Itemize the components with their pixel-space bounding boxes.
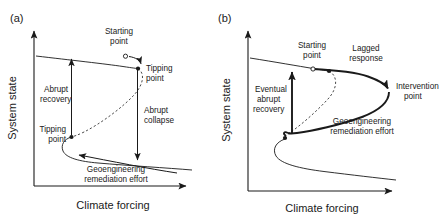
panel-b-eventual-recovery-label-line1: Eventual bbox=[255, 85, 287, 94]
panel-a-abrupt-recovery-label-line2: recovery bbox=[40, 95, 72, 104]
panel-a-starting-point-marker bbox=[123, 54, 127, 58]
panel-b-geoengineering-label-line2: remediation effort bbox=[330, 127, 394, 136]
panel-b-eventual-recovery-label-line2: abrupt bbox=[257, 95, 281, 104]
panel-a-tipping-point-lower-label-line2: point bbox=[48, 135, 66, 144]
panel-b: (b) Climate forcing System state Startin… bbox=[218, 12, 439, 214]
figure-canvas: (a) Climate forcing System state Startin… bbox=[0, 0, 443, 220]
panel-a-x-axis-title: Climate forcing bbox=[76, 199, 149, 211]
panel-a-abrupt-collapse-label-line1: Abrupt bbox=[144, 106, 169, 115]
panel-a-starting-point-label-line2: point bbox=[110, 37, 128, 46]
panel-a-geoengineering-label-line2: remediation effort bbox=[84, 175, 148, 184]
panel-a-tipping-point-lower-marker bbox=[69, 135, 73, 139]
panel-b-starting-point-label-line2: point bbox=[303, 51, 321, 60]
panel-b-intervention-point-label-line1: Intervention bbox=[396, 82, 439, 91]
panel-a-abrupt-collapse-label-line2: collapse bbox=[144, 116, 174, 125]
panel-a-starting-point-label-line1: Starting bbox=[105, 27, 134, 36]
panel-a-unstable-branch bbox=[72, 69, 143, 137]
panel-b-starting-point-marker bbox=[311, 67, 315, 71]
figure-hysteresis-diagram: (a) Climate forcing System state Startin… bbox=[0, 0, 443, 220]
panel-a-y-axis-title: System state bbox=[6, 76, 18, 140]
panel-a-starting-to-tipping-arrow bbox=[129, 57, 141, 64]
panel-b-intervention-point-label-line2: point bbox=[404, 92, 422, 101]
panel-b-lagged-response-label-line2: response bbox=[349, 54, 383, 63]
panel-b-starting-point-label-line1: Starting bbox=[298, 41, 327, 50]
panel-b-lagged-response-trajectory bbox=[312, 69, 388, 89]
panel-b-label: (b) bbox=[218, 12, 231, 24]
panel-b-lower-stable-branch bbox=[274, 139, 396, 180]
panel-b-x-axis-title: Climate forcing bbox=[285, 202, 358, 214]
panel-a: (a) Climate forcing System state Startin… bbox=[6, 12, 192, 211]
panel-b-y-axis-title: System state bbox=[220, 78, 232, 142]
panel-a-label: (a) bbox=[10, 12, 23, 24]
panel-b-geoengineering-label-line1: Geoengineering bbox=[333, 117, 392, 126]
panel-a-abrupt-recovery-label-line1: Abrupt bbox=[44, 85, 69, 94]
panel-b-eventual-recovery-label-line3: recovery bbox=[253, 105, 285, 114]
panel-a-tipping-point-upper-label-line2: point bbox=[146, 74, 164, 83]
panel-b-tipping-point-upper-marker bbox=[327, 69, 331, 73]
panel-a-tipping-point-upper-marker bbox=[136, 67, 140, 71]
panel-a-tipping-point-lower-label-line1: Tipping bbox=[39, 125, 66, 134]
panel-b-lagged-response-label-line1: Lagged bbox=[352, 44, 380, 53]
panel-b-trajectory-turn bbox=[284, 132, 288, 136]
panel-a-upper-stable-branch bbox=[36, 56, 138, 69]
panel-b-tipping-point-lower-marker bbox=[283, 136, 287, 140]
panel-a-tipping-point-upper-label-line1: Tipping bbox=[146, 64, 173, 73]
panel-a-geoengineering-label-line1: Geoengineering bbox=[87, 165, 146, 174]
